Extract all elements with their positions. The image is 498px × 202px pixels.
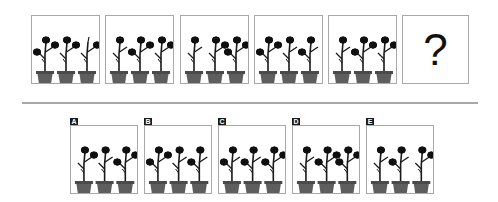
potted-plants-graphic [255,16,322,83]
potted-plants-graphic [145,126,211,193]
option-e[interactable] [366,125,434,194]
potted-plants-graphic [367,126,433,193]
sequence-panel-5 [328,15,397,84]
question-mark: ? [403,28,468,72]
option-a[interactable] [70,125,138,194]
sequence-panel-2 [105,15,174,84]
potted-plants-graphic [293,126,359,193]
option-d[interactable] [292,125,360,194]
divider [22,102,478,104]
sequence-panel-4 [254,15,323,84]
potted-plants-graphic [181,16,248,83]
missing-panel: ? [402,15,469,84]
sequence-panel-3 [180,15,249,84]
sequence-panel-1 [31,15,100,84]
potted-plants-graphic [106,16,173,83]
option-c[interactable] [218,125,286,194]
potted-plants-graphic [219,126,285,193]
potted-plants-graphic [32,16,99,83]
potted-plants-graphic [329,16,396,83]
option-b[interactable] [144,125,212,194]
potted-plants-graphic [71,126,137,193]
